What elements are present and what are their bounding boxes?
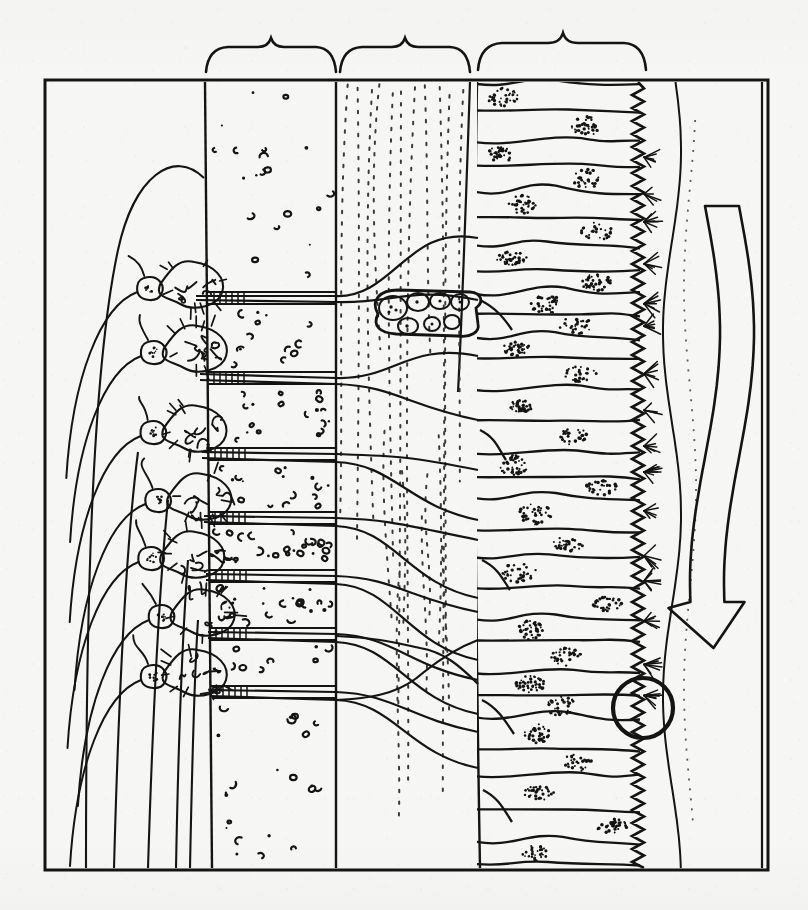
- epithelial-cell-boundary: [475, 640, 640, 642]
- cell-nucleus: [573, 168, 599, 188]
- granule-crescent: [235, 438, 238, 442]
- epithelial-cell-nuclei: [488, 87, 629, 885]
- granule-crescent: [220, 707, 228, 712]
- dendrite-branch: [187, 282, 196, 288]
- epithelial-cell-boundary: [476, 164, 640, 168]
- figure-root: [0, 0, 808, 910]
- dendrite-branch: [175, 287, 187, 292]
- epithelial-cell-boundary: [476, 772, 640, 777]
- dendrite-spine: [200, 303, 204, 314]
- granule-dot: [267, 555, 270, 558]
- granule-dot: [327, 484, 330, 487]
- dendrite-spine: [170, 404, 176, 411]
- granule-dot: [282, 475, 285, 478]
- basal-cell-boundary: [483, 790, 512, 822]
- granule-crescent: [267, 659, 273, 663]
- granule-ring: [252, 257, 258, 262]
- granule-ring: [255, 320, 260, 324]
- neuron: [66, 256, 226, 478]
- neuron-axon: [66, 292, 137, 478]
- granule-ring: [249, 422, 255, 427]
- epithelial-cell-boundary: [476, 809, 640, 812]
- granule-crescent: [326, 645, 333, 651]
- cell-nucleus: [524, 785, 555, 800]
- dendrite-branch: [212, 416, 222, 424]
- epithelial-cell-boundary: [474, 450, 640, 455]
- dotted-fiber-track: [389, 93, 393, 559]
- granule-dot: [263, 587, 266, 590]
- dendrite-branch: [203, 280, 215, 288]
- apical-twig: [133, 635, 148, 664]
- granule-ring: [313, 659, 318, 663]
- apical-twig: [129, 256, 145, 276]
- dendrite-spine: [162, 674, 169, 675]
- granule-dot: [221, 619, 223, 621]
- granule-crescent: [280, 600, 286, 606]
- dendrite-spine: [161, 649, 171, 657]
- granule-crescent: [283, 502, 289, 506]
- dotted-fiber-track: [340, 84, 348, 515]
- dendrite-branch: [210, 554, 222, 562]
- granule-dot: [234, 561, 237, 564]
- granule-dot: [233, 598, 236, 601]
- granule-dot: [217, 734, 221, 738]
- epithelial-cell-boundary: [474, 420, 640, 422]
- brace-middle: [340, 38, 470, 72]
- granule-crescent: [291, 530, 293, 534]
- zone-glomerular-granular: [205, 82, 336, 868]
- apical-twig: [142, 458, 153, 488]
- epithelial-cell-boundary: [474, 554, 640, 559]
- free-surface-dotted-line: [684, 120, 696, 828]
- epithelial-cell-boundary: [476, 137, 640, 143]
- cilium: [644, 403, 651, 410]
- epithelial-cell-boundary: [475, 269, 640, 272]
- neuron: [78, 582, 247, 806]
- granule-crescent: [327, 543, 332, 547]
- epithelial-cell-boundary: [474, 585, 640, 589]
- granule-dot: [305, 146, 309, 150]
- axon-crossing: [206, 574, 478, 612]
- granule-crescent: [232, 663, 235, 670]
- granule-crescent: [314, 721, 318, 725]
- cilia-tufts: [644, 150, 663, 709]
- cell-nucleus: [585, 479, 618, 496]
- dendrite-branch: [200, 582, 205, 594]
- granule-ring: [226, 530, 233, 537]
- epithelial-cell-boundary: [475, 241, 640, 249]
- cell-nucleus: [508, 194, 537, 215]
- granule-crescent: [247, 334, 253, 339]
- epithelial-cell-boundary: [476, 748, 640, 751]
- granule-dot: [225, 792, 227, 794]
- granule-dot: [309, 609, 313, 613]
- axon-crossing: [208, 638, 478, 714]
- apical-twig: [139, 397, 148, 420]
- dendrite-branch: [195, 428, 206, 434]
- cilium: [644, 545, 655, 556]
- granule-dot: [314, 645, 318, 649]
- granule-dot: [221, 124, 223, 126]
- dotted-fiber-track: [357, 88, 359, 546]
- epithelial-cell-boundary: [475, 614, 641, 621]
- granule-crescent: [329, 602, 333, 607]
- granule-crescent: [306, 272, 310, 277]
- granule-crescent: [313, 494, 317, 499]
- dotted-fiber-track: [425, 474, 430, 616]
- dendrite-spine: [169, 262, 174, 268]
- granule-dot: [322, 608, 326, 612]
- granule-crescent: [257, 547, 263, 555]
- granule-dot: [292, 597, 295, 600]
- granule-dot: [284, 466, 287, 469]
- epithelial-cell-boundary: [477, 836, 640, 845]
- granule-crescent: [238, 310, 243, 317]
- granule-crescent: [243, 619, 250, 626]
- granule-dot: [315, 408, 319, 412]
- neuron-nucleus: [148, 346, 157, 358]
- cell-nucleus: [488, 146, 511, 161]
- granule-crescent: [213, 148, 216, 152]
- granule-ring: [315, 395, 323, 403]
- granule-dot: [252, 91, 255, 94]
- dendrite-spine: [214, 462, 218, 473]
- dendrite-spine: [167, 326, 175, 334]
- cell-nucleus: [564, 754, 593, 772]
- dendrite-branch: [185, 342, 197, 352]
